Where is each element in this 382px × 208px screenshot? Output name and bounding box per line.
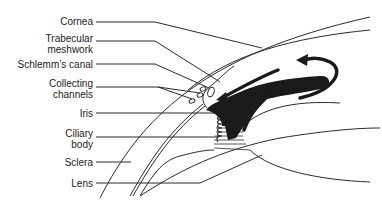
label-lens: Lens	[71, 178, 93, 189]
leader-schlemm	[96, 64, 209, 88]
lens-anterior-curve	[140, 128, 380, 196]
leader-collecting-b	[158, 87, 200, 93]
eye-anatomy-diagram: Cornea Trabecular meshwork Schlemm’s can…	[0, 0, 382, 208]
leader-collecting-a	[96, 87, 192, 99]
leader-lens	[96, 155, 262, 183]
arrowhead-mid-icon	[216, 92, 228, 103]
label-iris: Iris	[80, 108, 93, 119]
label-trabecular-meshwork: Trabecular meshwork	[46, 33, 93, 55]
label-ciliary-body: Ciliary body	[65, 128, 93, 150]
diagram-artwork	[0, 0, 382, 208]
lens-bottom-curve	[250, 150, 370, 182]
arrowhead-top-icon	[296, 54, 308, 66]
leader-trabecular	[96, 41, 220, 82]
leader-cornea	[96, 22, 262, 48]
label-sclera: Sclera	[65, 157, 93, 168]
label-schlemms-canal: Schlemm’s canal	[18, 59, 93, 70]
label-collecting-channels: Collecting channels	[49, 78, 93, 100]
label-cornea: Cornea	[60, 16, 93, 27]
